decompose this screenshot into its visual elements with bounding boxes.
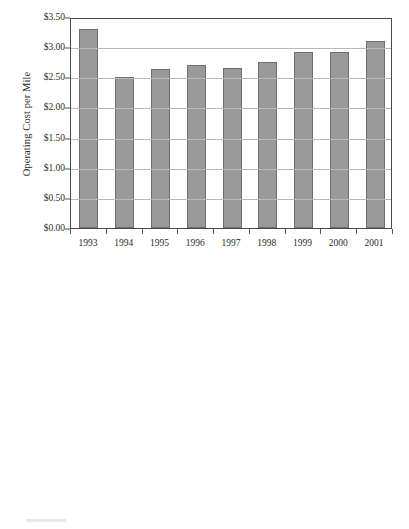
y-axis-tick-label: $1.00 <box>44 164 65 174</box>
x-axis-tick-label: 1994 <box>114 238 133 248</box>
x-axis-tick-mark <box>249 229 250 234</box>
gridline <box>71 199 391 200</box>
plot-area <box>70 18 392 229</box>
y-axis-tick-labels: $0.00$0.50$1.00$1.50$2.00$2.50$3.00$3.50 <box>21 0 65 1</box>
bar <box>258 62 277 228</box>
y-axis-title: Operating Cost per Mile <box>21 71 32 176</box>
y-axis-tick-label: $2.50 <box>44 74 65 84</box>
x-axis-tick-mark <box>320 229 321 234</box>
gridline <box>71 78 391 79</box>
y-axis-tick-label: $3.50 <box>44 13 65 23</box>
x-axis-tick-mark <box>106 229 107 234</box>
chart-operating-cost-per-mile: Operating Cost per Mile $0.00$0.50$1.00$… <box>0 0 409 265</box>
bar <box>151 69 170 228</box>
y-axis-tick-label: $1.50 <box>44 134 65 144</box>
bar <box>115 77 134 228</box>
bar <box>223 68 242 228</box>
y-axis-tick-mark <box>65 138 70 139</box>
x-axis-tick-label: 1999 <box>293 238 312 248</box>
y-axis-tick-mark <box>65 168 70 169</box>
y-axis-tick-mark <box>65 78 70 79</box>
x-axis-tick-label: 2001 <box>365 238 384 248</box>
x-axis-tick-mark <box>213 229 214 234</box>
x-axis-tick-label: 1995 <box>150 238 169 248</box>
y-axis-tick-mark <box>65 108 70 109</box>
x-axis-tick-mark <box>285 229 286 234</box>
x-axis-tick-label: 1997 <box>222 238 241 248</box>
x-axis-tick-label: 1993 <box>78 238 97 248</box>
gridline <box>71 108 391 109</box>
y-axis-tick-mark <box>65 18 70 19</box>
y-axis-tick-label: $0.00 <box>44 224 65 234</box>
y-axis-tick-label: $3.00 <box>44 43 65 53</box>
gridline <box>71 139 391 140</box>
y-axis-tick-label: $2.00 <box>44 104 65 114</box>
y-axis-tick-mark <box>65 198 70 199</box>
y-axis-tick-mark <box>65 229 70 230</box>
x-axis-tick-mark <box>177 229 178 234</box>
x-axis-tick-label: 2000 <box>329 238 348 248</box>
bar <box>366 41 385 228</box>
gridline <box>71 169 391 170</box>
y-axis-tick-labels: $0.00$5.00$10.00$15.00$20.00$25.00$30.00… <box>21 265 65 266</box>
x-axis-tick-mark <box>142 229 143 234</box>
gridline <box>71 48 391 49</box>
y-axis-tick-mark <box>65 48 70 49</box>
x-axis-tick-label: 1998 <box>257 238 276 248</box>
scan-artifact <box>26 519 66 522</box>
bar-series <box>71 19 391 228</box>
chart-operating-cost-per-hour: Operating Cost per Hour $0.00$5.00$10.00… <box>0 265 409 529</box>
x-axis-tick-labels: 199319941995199619971998199920002001 <box>70 229 392 253</box>
bar <box>187 65 206 228</box>
x-axis-tick-label: 1996 <box>186 238 205 248</box>
x-axis-tick-mark <box>356 229 357 234</box>
x-axis-tick-mark <box>392 229 393 234</box>
x-axis-tick-mark <box>70 229 71 234</box>
y-axis-tick-label: $0.50 <box>44 194 65 204</box>
